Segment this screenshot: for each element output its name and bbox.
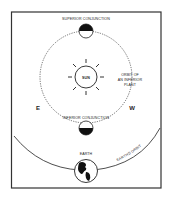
orbit-label-line1: ORBIT OF [121,73,139,77]
inferior-conjunction-label: INFERIOR CONJUNCTION [63,116,110,120]
superior-conjunction-label: SUPERIOR CONJUNCTION [62,17,110,21]
east-label: E [36,105,40,111]
inferior-planet-conjunction-diagram: SUPERIOR CONJUNCTION SUN ORBIT OF AN INF… [0,0,176,200]
planet-superior-conjunction-icon [79,24,93,38]
orbit-label-line3: PLANT [124,83,137,87]
planet-inferior-conjunction-icon [79,121,93,135]
earth-globe-icon [75,160,98,183]
sun-label: SUN [82,76,90,80]
earth-label: EARTH [80,152,93,156]
west-label: W [129,105,135,111]
orbit-label-line2: AN INFERIOR [118,78,143,82]
